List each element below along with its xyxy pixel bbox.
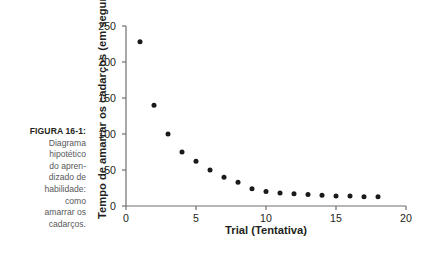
- x-axis-tick-label: 20: [393, 213, 419, 224]
- data-point: [222, 175, 227, 180]
- data-point: [166, 132, 171, 137]
- data-point: [292, 191, 297, 196]
- y-axis-tick-label: 250: [90, 21, 116, 32]
- data-point: [376, 194, 381, 199]
- data-point: [306, 192, 311, 197]
- data-point: [180, 150, 185, 155]
- x-axis-tick-label: 0: [113, 213, 139, 224]
- data-point: [264, 189, 269, 194]
- x-axis-ticks: [126, 206, 406, 210]
- y-axis-tick-label: 50: [90, 165, 116, 176]
- data-point: [362, 194, 367, 199]
- x-axis-tick-label: 15: [323, 213, 349, 224]
- axis-spines: [126, 26, 406, 206]
- data-points: [138, 39, 381, 199]
- data-point: [138, 39, 143, 44]
- data-point: [250, 186, 255, 191]
- x-axis-tick-label: 5: [183, 213, 209, 224]
- data-point: [194, 159, 199, 164]
- data-point: [320, 193, 325, 198]
- y-axis-tick-label: 100: [90, 129, 116, 140]
- data-point: [334, 193, 339, 198]
- y-axis-tick-label: 150: [90, 93, 116, 104]
- data-point: [208, 168, 213, 173]
- scatter-plot: Tempo de amarrar os cadarços (em segundo…: [0, 0, 432, 258]
- data-point: [278, 191, 283, 196]
- data-point: [348, 193, 353, 198]
- data-point: [236, 180, 241, 185]
- y-axis-tick-label: 0: [90, 201, 116, 212]
- plot-axes: [0, 0, 432, 258]
- data-point: [152, 103, 157, 108]
- y-axis-tick-label: 200: [90, 57, 116, 68]
- figure-container: FIGURA 16-1: Diagrama hipotético do apre…: [0, 0, 432, 258]
- x-axis-tick-label: 10: [253, 213, 279, 224]
